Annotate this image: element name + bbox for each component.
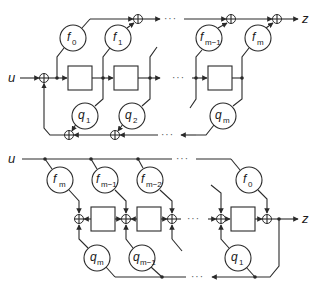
bottom-delay-box-1 [91,207,115,231]
bottom-output-label: z [301,211,309,226]
top-gain-fm-1: f m−1 [196,25,222,51]
bottom-gain-fm-2: f m−2 [137,167,163,193]
svg-text:q: q [231,250,238,264]
bottom-gain-fm: f m [47,167,73,193]
bottom-delay-box-2 [137,207,161,231]
top-output-label: z [301,11,309,26]
bottom-gain-fm-1: f m−1 [92,167,118,193]
bottom-diagram: u ··· f m f m−1 f m−2 [8,151,309,282]
top-gain-f0: f 0 [60,25,86,51]
top-input-adder [40,74,49,83]
svg-text:m: m [223,116,230,125]
bottom-adder-3 [168,215,177,224]
top-output-adder-1 [134,15,143,24]
svg-text:m: m [59,180,66,189]
top-gain-q2: q 2 [119,103,145,129]
top-delay-box-2 [114,66,138,90]
svg-text:0: 0 [248,180,253,189]
bottom-adder-4 [217,215,226,224]
bottom-gain-qm-1: q m−1 [129,245,156,271]
top-ellipsis-upper: ··· [164,13,177,24]
top-gain-fm: f m [245,25,271,51]
bottom-ellipsis-lower: ··· [191,271,204,282]
svg-text:m: m [97,258,104,267]
bottom-adder-2 [122,215,131,224]
bottom-gain-qm: q m [84,245,110,271]
svg-text:m: m [257,38,264,47]
top-output-adder-m1 [227,15,236,24]
top-input-label: u [8,70,15,85]
svg-text:q: q [125,108,132,122]
top-feedback-adder-1 [65,131,74,140]
top-gain-qm: q m [210,103,236,129]
top-delay-box-m [208,66,232,90]
svg-text:2: 2 [133,116,138,125]
svg-text:m−1: m−1 [140,258,156,267]
signal-flow-diagram: u ··· ··· [0,0,324,295]
bottom-ellipsis-middle: ··· [187,213,200,224]
svg-text:q: q [215,108,222,122]
bottom-adder-1 [75,215,84,224]
top-output-adder-m [273,15,282,24]
bottom-gain-q1: q 1 [225,245,251,271]
bottom-gain-f0: f 0 [236,167,262,193]
svg-text:1: 1 [239,258,244,267]
top-feedback-adder-2 [111,131,120,140]
svg-text:q: q [133,250,140,264]
bottom-output-adder [263,215,272,224]
bottom-input-label: u [8,151,15,166]
bottom-ellipsis-upper: ··· [176,153,189,164]
bottom-delay-box-m [231,207,255,231]
svg-text:q: q [90,250,97,264]
svg-text:0: 0 [72,38,77,47]
top-diagram: u ··· ··· [8,11,309,140]
top-ellipsis-lower: ··· [161,129,174,140]
svg-text:m−1: m−1 [205,38,221,47]
top-ellipsis-middle: ··· [172,72,185,83]
svg-text:m−1: m−1 [101,180,117,189]
top-gain-f1: f 1 [105,25,131,51]
svg-text:m−2: m−2 [146,180,162,189]
svg-text:q: q [78,108,85,122]
svg-text:1: 1 [86,116,91,125]
top-delay-box-1 [68,66,92,90]
top-gain-q1: q 1 [72,103,98,129]
svg-text:1: 1 [118,38,123,47]
